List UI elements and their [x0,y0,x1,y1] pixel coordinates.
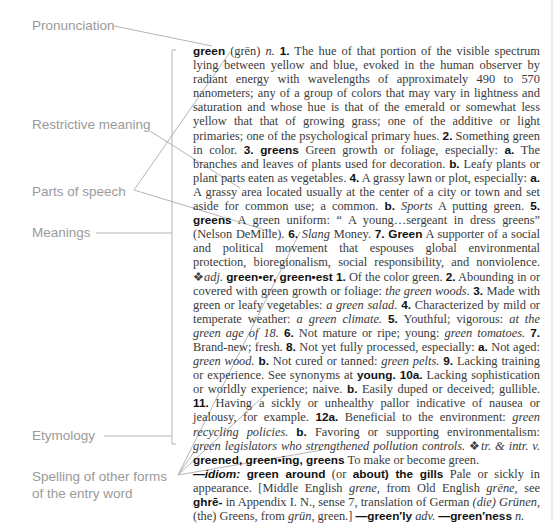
sense-number: 4. [401,298,411,312]
derived-pos: adv. [415,509,435,523]
sense-number: 5. [388,312,398,326]
callout-parts-of-speech: Parts of speech [32,184,126,200]
meanings-bracket [172,50,176,444]
pos-noun: n. [265,44,274,58]
sense-number: 8. [286,340,296,354]
pos-verb: tr. & intr. v. [481,439,540,453]
subsense-letter: b. [258,354,268,368]
callout-spelling-line2: of the entry word [32,486,133,502]
variant-form: greens [193,213,232,227]
subsense-letter: a. [478,340,488,354]
spelling-leader-ness [178,452,194,475]
root-reference: ghrē- [193,495,223,509]
example: a green climate. [297,312,383,326]
etymon: (die) Grünen, [473,495,540,509]
sense-number: 6. [288,227,298,241]
etymon: grēne, [486,481,517,495]
callout-meanings: Meanings [32,225,91,241]
sense-number: 3. [244,143,254,157]
sense-text: A grassy lawn or plot, especially: [362,171,527,185]
pronunciation: (grēn) [230,44,260,58]
example: green tomatoes. [444,326,525,340]
etymon: grün, [288,509,315,523]
sense-text: Not aged: [491,340,540,354]
pronunciation-leader [114,26,212,46]
sense-text: Youthful; vigorous: [403,312,503,326]
etymology-text: see [524,481,540,495]
sense-number: 6. [284,326,294,340]
dictionary-entry: green (grēn) n. 1. The hue of that porti… [193,44,540,523]
pos-marker: ❖ [193,270,204,284]
derived-pos: n. [515,509,524,523]
sense-text: Of the color green. [349,270,443,284]
subsense-letter: a. [530,171,540,185]
derived-form: —green′ness [438,509,512,523]
sense-number: 11. [193,396,209,410]
sense-text: Beneficial to the environment: [345,410,506,424]
example: green pelts. [381,354,439,368]
variant-form: greens [260,143,299,157]
sense-text: To make or become green. [348,453,480,467]
etymology-text: from Old English [386,481,479,495]
sense-number: 2. [443,129,453,143]
headword: green [193,44,225,58]
etymology-text: [Middle English [258,481,342,495]
restrictive-label: Sports [401,199,433,213]
callout-pronunciation: Pronunciation [32,18,115,34]
etymology-text: green.] [318,509,353,523]
idiom-or: (or [332,467,346,481]
pos-adjective: adj. [204,270,223,284]
sense-number: 7. [375,227,385,241]
subsense-letter: b. [296,425,306,439]
idiom-and-etymology: —idiom: green around (or about) the gill… [193,467,540,523]
sense-text: Not mature or ripe; young: [299,326,440,340]
sense-text: A putting green. [438,199,524,213]
sense-text: Money. [334,227,371,241]
example: the green woods. [385,284,469,298]
sense-text: Not cured or tanned: [273,354,378,368]
sense-number: 2. [446,270,456,284]
variant-form: Green [388,227,422,241]
etymology-text: (the) Greens, from [193,509,285,523]
idiom-phrase: green around [247,467,326,481]
idiom-alternate: about) the gills [353,467,444,481]
sense-text: Not yet fully processed, especially: [299,340,474,354]
entry-body: green (grēn) n. 1. The hue of that porti… [193,44,540,467]
subsense-letter: b. [449,157,459,171]
sense-number: 9. [443,354,453,368]
etymology-text: in Appendix I. N., sense 7, translation … [226,495,470,509]
idiom-label: —idiom: [193,467,240,481]
sense-text: Easily duped or deceived; gullible. [362,382,540,396]
inflected-forms: green•er, green•est [226,270,333,284]
sense-number: 7. [530,326,540,340]
sense-number: 3. [473,284,483,298]
sense-number: 1. [280,44,290,58]
sense-number: 1. [336,270,346,284]
sense-number: 4. [349,171,359,185]
subsense-letter: a. [505,143,515,157]
subsense-letter: b. [384,199,394,213]
pos-marker: ❖ [469,439,481,453]
derived-form: —green′ly [355,509,412,523]
sense-text: Brand-new; fresh. [193,340,283,354]
cross-reference: young. [357,368,396,382]
sense-number: 5. [530,199,540,213]
sense-number: 12a. [315,410,338,424]
example: green wood. [193,354,255,368]
sense-text: Green growth or foliage, especially: [305,143,498,157]
example: a green salad. [326,298,397,312]
callout-etymology: Etymology [32,428,95,444]
callout-restrictive-meaning: Restrictive meaning [32,117,151,133]
sense-number: 10a. [400,368,423,382]
etymon: grene, [349,481,380,495]
subsense-letter: b. [347,382,357,396]
page-edge [551,0,553,520]
sense-text: Favoring or supporting environmentalism: [315,425,540,439]
restrictive-label: Slang [302,227,330,241]
inflected-forms: greened, green•ing, greens [193,453,345,467]
example: green legislators who strengthened pollu… [193,439,465,453]
callout-spelling-line1: Spelling of other forms [32,469,167,485]
